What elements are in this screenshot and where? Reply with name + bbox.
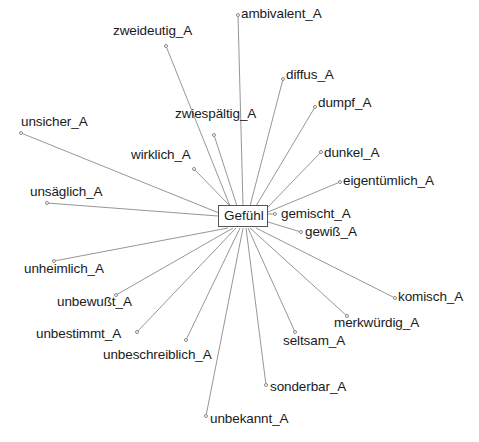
node-label[interactable]: zwiespältig_A <box>175 107 256 121</box>
node-label[interactable]: komisch_A <box>398 290 463 304</box>
node-marker[interactable] <box>393 296 397 300</box>
center-node-gefuehl[interactable]: Gefühl <box>218 205 268 227</box>
node-label[interactable]: unsäglich_A <box>30 185 102 199</box>
node-marker[interactable] <box>204 414 208 418</box>
node-marker[interactable] <box>184 338 188 342</box>
node-label[interactable]: unbeschreiblich_A <box>103 348 212 362</box>
node-label[interactable]: eigentümlich_A <box>343 174 434 188</box>
node-label[interactable]: zweideutig_A <box>113 24 192 38</box>
semantic-network-graph: Gefühlambivalent_Azweideutig_Adiffus_Adu… <box>0 0 479 442</box>
node-marker[interactable] <box>264 383 268 387</box>
node-label[interactable]: sonderbar_A <box>270 380 346 394</box>
node-label[interactable]: dumpf_A <box>318 96 371 110</box>
node-marker[interactable] <box>299 230 303 234</box>
node-label[interactable]: gemischt_A <box>281 207 351 221</box>
node-marker[interactable] <box>236 13 240 17</box>
node-label[interactable]: unbestimmt_A <box>36 327 121 341</box>
node-layer: Gefühlambivalent_Azweideutig_Adiffus_Adu… <box>0 0 479 442</box>
node-marker[interactable] <box>281 77 285 81</box>
node-label[interactable]: dunkel_A <box>324 146 380 160</box>
node-marker[interactable] <box>164 44 168 48</box>
node-label[interactable]: unbewußt_A <box>57 295 132 309</box>
node-label[interactable]: gewiß_A <box>305 225 357 239</box>
node-label[interactable]: seltsam_A <box>283 334 345 348</box>
node-marker[interactable] <box>319 150 323 154</box>
node-label[interactable]: diffus_A <box>286 68 334 82</box>
node-label[interactable]: merkwürdig_A <box>334 316 419 330</box>
node-marker[interactable] <box>192 167 196 171</box>
node-label[interactable]: unsicher_A <box>21 115 88 129</box>
node-marker[interactable] <box>19 131 23 135</box>
node-marker[interactable] <box>135 330 139 334</box>
node-marker[interactable] <box>338 180 342 184</box>
node-label[interactable]: wirklich_A <box>131 148 191 162</box>
node-marker[interactable] <box>273 212 277 216</box>
node-marker[interactable] <box>313 105 317 109</box>
node-label[interactable]: ambivalent_A <box>241 7 322 21</box>
node-marker[interactable] <box>212 133 216 137</box>
node-marker[interactable] <box>45 201 49 205</box>
node-label[interactable]: unheimlich_A <box>24 262 104 276</box>
node-label[interactable]: unbekannt_A <box>210 412 288 426</box>
